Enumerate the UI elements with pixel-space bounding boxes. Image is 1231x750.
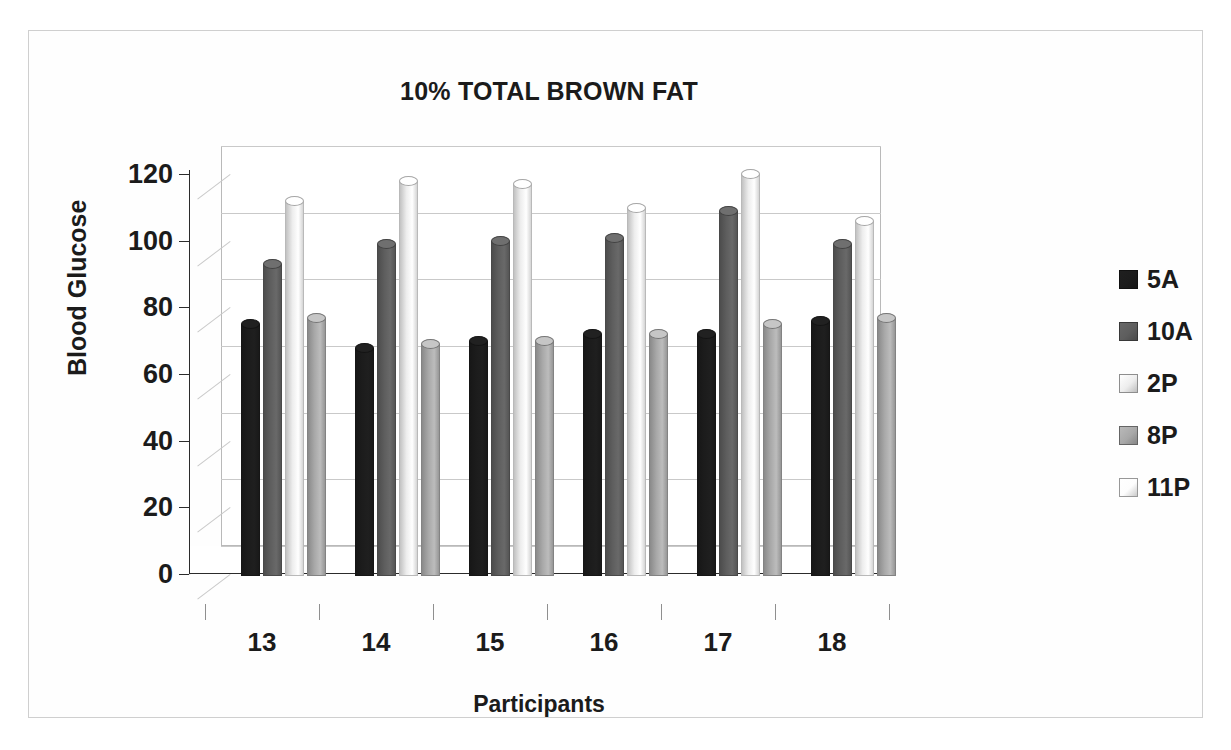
- bar-cap: [855, 216, 874, 226]
- legend-swatch-icon: [1119, 322, 1138, 341]
- bar-body: [535, 341, 554, 576]
- y-axis-tick: [179, 374, 189, 375]
- x-axis-tick-label: 13: [248, 627, 277, 658]
- legend-label: 2P: [1147, 369, 1178, 398]
- bar-body: [855, 221, 874, 576]
- bar-5A-16: [583, 329, 602, 576]
- bar-body: [649, 334, 668, 576]
- bar-cap: [535, 336, 554, 346]
- bar-10A-18: [833, 239, 852, 576]
- y-axis-tick: [179, 574, 189, 575]
- bar-body: [697, 334, 716, 576]
- bar-body: [377, 244, 396, 576]
- bar-cap: [491, 236, 510, 246]
- bar-8P-16: [649, 329, 668, 576]
- plot-area: 020406080100120: [189, 146, 889, 576]
- bar-10A-17: [719, 206, 738, 576]
- bar-cap: [307, 313, 326, 323]
- bar-body: [833, 244, 852, 576]
- y-axis-title: Blood Glucose: [63, 200, 92, 376]
- bar-cap: [719, 206, 738, 216]
- bar-5A-18: [811, 316, 830, 576]
- bar-8P-13: [307, 313, 326, 576]
- legend-label: 5A: [1147, 265, 1179, 294]
- bar-body: [627, 208, 646, 576]
- chart-title: 10% TOTAL BROWN FAT: [29, 77, 1069, 106]
- gridline-depth-connector: [197, 574, 230, 599]
- bar-10A-14: [377, 239, 396, 576]
- bar-cap: [355, 343, 374, 353]
- bar-5A-14: [355, 343, 374, 576]
- bar-body: [719, 211, 738, 576]
- y-axis-tick-label: 100: [128, 225, 173, 256]
- y-axis-tick: [179, 174, 189, 175]
- y-axis-tick-label: 60: [143, 359, 173, 390]
- bar-body: [811, 321, 830, 576]
- y-axis-tick-label: 20: [143, 492, 173, 523]
- x-axis-tick: [775, 604, 776, 620]
- x-axis-tick-label: 17: [704, 627, 733, 658]
- y-axis-tick-label: 120: [128, 159, 173, 190]
- legend-label: 11P: [1147, 473, 1190, 502]
- x-axis-title: Participants: [189, 691, 889, 718]
- bar-2P-16: [627, 203, 646, 576]
- x-axis-tick: [889, 604, 890, 620]
- bar-10A-15: [491, 236, 510, 576]
- bar-body: [877, 318, 896, 576]
- x-axis-tick-label: 16: [590, 627, 619, 658]
- bar-body: [605, 238, 624, 576]
- bar-2P-13: [285, 196, 304, 576]
- y-axis-tick-label: 0: [158, 559, 173, 590]
- bar-body: [263, 264, 282, 576]
- y-axis-tick: [179, 441, 189, 442]
- y-axis-tick: [179, 307, 189, 308]
- bar-cap: [605, 233, 624, 243]
- bar-cap: [627, 203, 646, 213]
- x-axis-tick: [205, 604, 206, 620]
- x-axis-tick: [661, 604, 662, 620]
- bar-body: [355, 348, 374, 576]
- bar-body: [399, 181, 418, 576]
- legend-swatch-icon: [1119, 426, 1138, 445]
- bar-5A-15: [469, 336, 488, 576]
- bar-cap: [877, 313, 896, 323]
- y-axis-tick: [179, 507, 189, 508]
- x-axis-tick: [319, 604, 320, 620]
- chart-figure: 10% TOTAL BROWN FAT Blood Glucose 020406…: [28, 30, 1203, 718]
- bar-2P-18: [855, 216, 874, 576]
- bar-8P-15: [535, 336, 554, 576]
- bar-group: [355, 148, 465, 576]
- bar-body: [241, 324, 260, 576]
- bar-body: [513, 184, 532, 576]
- bar-10A-13: [263, 259, 282, 576]
- chart-left-depth-edge: [189, 174, 221, 574]
- bar-cap: [285, 196, 304, 206]
- chart-legend: 5A10A2P8P11P: [1119, 253, 1229, 513]
- bar-5A-17: [697, 329, 716, 576]
- x-axis-tick-label: 15: [476, 627, 505, 658]
- bar-group: [469, 148, 579, 576]
- bar-2P-14: [399, 176, 418, 576]
- bar-group: [697, 148, 807, 576]
- bar-body: [763, 324, 782, 576]
- bar-body: [421, 344, 440, 576]
- y-axis-tick-label: 80: [143, 292, 173, 323]
- x-axis-tick: [433, 604, 434, 620]
- legend-swatch-icon: [1119, 270, 1138, 289]
- legend-item-5A: 5A: [1119, 253, 1229, 305]
- legend-item-11P: 11P: [1119, 461, 1229, 513]
- bar-group: [811, 148, 921, 576]
- bar-group: [241, 148, 351, 576]
- bar-2P-15: [513, 179, 532, 576]
- x-axis-tick-label: 14: [362, 627, 391, 658]
- legend-label: 8P: [1147, 421, 1178, 450]
- legend-label: 10A: [1147, 317, 1193, 346]
- bar-8P-18: [877, 313, 896, 576]
- legend-swatch-icon: [1119, 478, 1138, 497]
- bar-8P-17: [763, 319, 782, 576]
- y-axis-tick: [179, 241, 189, 242]
- y-axis-line: [189, 170, 190, 574]
- bar-body: [469, 341, 488, 576]
- bar-body: [285, 201, 304, 576]
- bar-body: [741, 174, 760, 576]
